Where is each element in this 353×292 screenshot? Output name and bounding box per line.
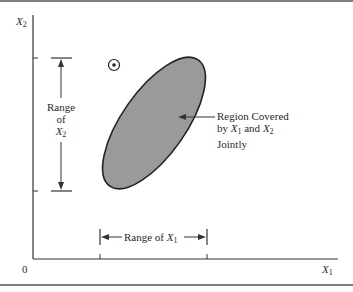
y-axis-label: X2 [16,15,27,31]
region-label-line1: Region Covered [217,110,289,122]
region-label-line2: by X1 and X2 [217,122,289,138]
x-axis-label: X1 [322,263,333,279]
arrow-right-icon [198,234,206,240]
origin-label: 0 [22,263,28,275]
diagram-frame: X2 X1 0 Range of X2 Range of X1 Region C… [0,0,353,292]
region-label: Region Covered by X1 and X2 Jointly [217,110,289,150]
arrow-left-icon [101,234,109,240]
range-x1-label: Range of X1 [124,231,178,247]
outlier-point-dot [112,63,116,67]
joint-region-ellipse [84,42,225,205]
arrow-up-icon [58,59,64,67]
region-label-line3: Jointly [217,138,289,150]
arrow-down-icon [58,182,64,190]
range-x2-label: Range of X2 [44,101,78,141]
range-x2-line3: X2 [44,125,78,141]
range-x2-line1: Range [44,101,78,113]
range-x2-line2: of [44,113,78,125]
diagram-canvas [0,0,353,292]
